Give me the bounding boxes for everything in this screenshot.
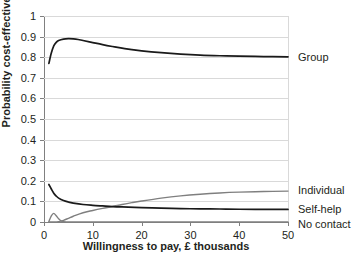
y-tick-label: 0.5 xyxy=(0,114,36,125)
y-tick-label: 0.7 xyxy=(0,73,36,84)
y-tick-label: 1 xyxy=(0,11,36,22)
y-tick-label: 0.4 xyxy=(0,135,36,146)
y-tick-label: 0.9 xyxy=(0,32,36,43)
x-axis-title: Willingness to pay, £ thousands xyxy=(44,240,288,252)
series-label-individual: Individual xyxy=(298,185,344,196)
series-curves xyxy=(44,16,288,223)
y-tick-label: 0.6 xyxy=(0,93,36,104)
y-tick-label: 0.3 xyxy=(0,155,36,166)
series-line-group xyxy=(49,39,288,64)
series-label-no-contact: No contact xyxy=(298,219,351,230)
series-label-self-help: Self-help xyxy=(298,204,341,215)
y-tick-label: 0.8 xyxy=(0,52,36,63)
plot-right-border xyxy=(288,16,289,223)
plot-area xyxy=(44,16,288,222)
series-label-group: Group xyxy=(298,52,329,63)
y-tick-label: 0.1 xyxy=(0,196,36,207)
series-line-no-contact xyxy=(49,213,288,222)
figure: Probability cost-effective 00.10.20.30.4… xyxy=(0,0,359,261)
y-tick-label: 0.2 xyxy=(0,176,36,187)
series-line-individual xyxy=(49,191,288,222)
y-tick-label: 0 xyxy=(0,217,36,228)
